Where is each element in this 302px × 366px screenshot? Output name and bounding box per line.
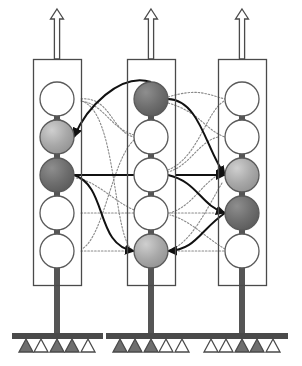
column-1-support-triangle-0: [19, 339, 33, 352]
column-2-support-triangle-1: [128, 339, 142, 352]
column-1-support-triangle-1: [34, 339, 48, 352]
column-2-support-triangle-3: [159, 339, 173, 352]
column-2-support-triangle-2: [144, 339, 158, 352]
column-2-ground: [106, 333, 197, 352]
column-2-node-1[interactable]: [134, 120, 168, 154]
column-3-node-2[interactable]: [225, 158, 259, 192]
column-3-support-triangle-0: [204, 339, 218, 352]
column-2-node-0[interactable]: [134, 82, 168, 116]
diagram-canvas: [0, 0, 302, 366]
column-2-ground-bar: [106, 333, 197, 339]
column-2-output-arrow-icon: [145, 9, 158, 59]
column-3-ground: [197, 333, 288, 352]
dotted-link-10: [81, 101, 134, 135]
column-1-node-0[interactable]: [40, 82, 74, 116]
column-3-support-triangle-3: [250, 339, 264, 352]
column-3-node-4[interactable]: [225, 234, 259, 268]
column-2: [128, 9, 176, 333]
column-1-ground: [12, 333, 103, 352]
column-3-output-arrow-icon: [236, 9, 249, 59]
column-2-node-2[interactable]: [134, 158, 168, 192]
column-1-support-triangle-4: [81, 339, 95, 352]
column-2-support-triangle-0: [113, 339, 127, 352]
network-diagram: [0, 0, 302, 366]
column-2-node-4[interactable]: [134, 234, 168, 268]
column-1-output-arrow-icon: [51, 9, 64, 59]
ground-layer: [12, 333, 288, 352]
column-1-node-2[interactable]: [40, 158, 74, 192]
column-1-node-3[interactable]: [40, 196, 74, 230]
column-layer: [34, 9, 267, 333]
dotted-link-11: [82, 140, 134, 249]
dotted-link-2: [168, 92, 225, 99]
column-1-node-1[interactable]: [40, 120, 74, 154]
column-3-support-triangle-1: [219, 339, 233, 352]
column-2-support-triangle-4: [175, 339, 189, 352]
column-3-ground-bar: [197, 333, 288, 339]
column-1: [34, 9, 82, 333]
column-1-support-triangle-2: [50, 339, 64, 352]
solid-link-5: [168, 213, 225, 251]
column-1-ground-bar: [12, 333, 103, 339]
column-2-node-3[interactable]: [134, 196, 168, 230]
dotted-link-0: [81, 99, 134, 137]
column-3-node-3[interactable]: [225, 196, 259, 230]
column-1-node-4[interactable]: [40, 234, 74, 268]
column-3-node-0[interactable]: [225, 82, 259, 116]
column-3-support-triangle-4: [266, 339, 280, 352]
column-1-support-triangle-3: [65, 339, 79, 352]
column-3-node-1[interactable]: [225, 120, 259, 154]
dotted-link-9: [170, 175, 218, 213]
column-3: [219, 9, 267, 333]
column-3-support-triangle-2: [235, 339, 249, 352]
